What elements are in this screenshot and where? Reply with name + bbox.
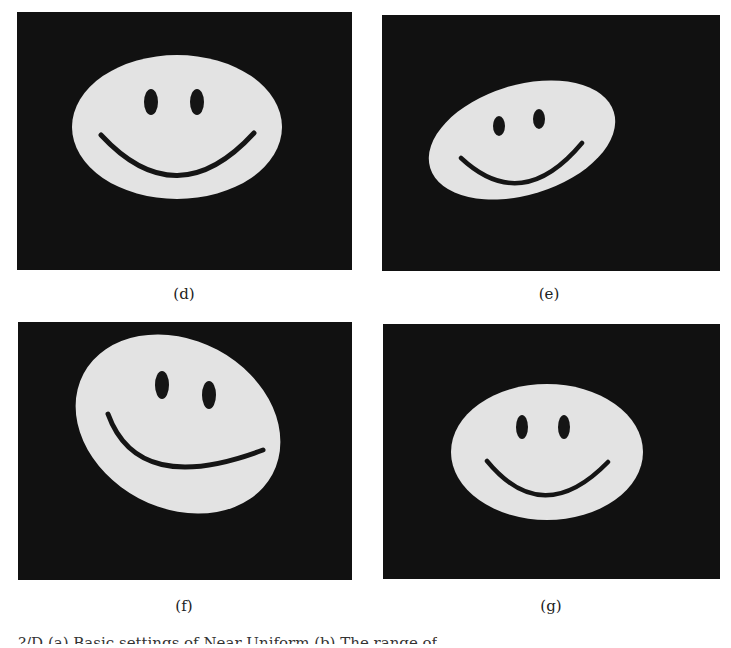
panel-g-image	[383, 324, 720, 579]
panel-e-image	[382, 15, 720, 271]
smiley-face-icon	[382, 15, 720, 271]
panel-d-image	[17, 12, 352, 270]
panel-g-caption: (g)	[511, 597, 591, 615]
smiley-face-icon	[18, 322, 352, 580]
panel-e-caption: (e)	[509, 285, 589, 303]
panel-f-image	[18, 322, 352, 580]
figure-caption-partial: ?/D (a) Basic settings of Near Uniform (…	[18, 634, 437, 648]
smiley-face-icon	[17, 12, 352, 270]
panel-f-caption: (f)	[144, 597, 224, 615]
panel-d-caption: (d)	[144, 285, 224, 303]
smiley-face-icon	[383, 324, 720, 579]
